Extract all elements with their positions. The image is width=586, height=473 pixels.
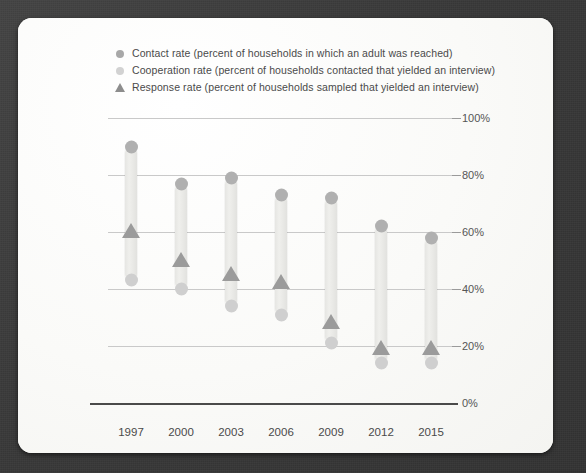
range-bar [175,184,187,289]
y-axis-tick-mark [452,175,461,176]
bar-group[interactable] [214,18,248,453]
cooperation-rate-marker[interactable] [375,357,388,370]
cooperation-rate-marker[interactable] [425,357,438,370]
bar-group[interactable] [414,18,448,453]
y-axis-tick-mark [452,118,461,119]
chart-card-surface: Contact rate (percent of households in w… [18,18,553,453]
contact-rate-marker[interactable] [325,191,338,204]
y-axis-tick-label: 40% [462,283,484,295]
response-rate-marker[interactable] [422,340,440,355]
response-rate-marker[interactable] [222,266,240,281]
contact-rate-marker[interactable] [125,140,138,153]
y-axis-tick-label: 100% [462,112,490,124]
y-axis-tick-label: 0% [462,397,478,409]
x-axis-tick-label: 2015 [401,426,461,438]
cooperation-rate-marker[interactable] [275,308,288,321]
bar-group[interactable] [364,18,398,453]
range-bar [225,178,237,306]
y-axis-tick-label: 60% [462,226,484,238]
contact-rate-marker[interactable] [375,220,388,233]
chart-plot-area: 0%20%40%60%80%100%1997200020032006200920… [18,18,553,453]
contact-rate-marker[interactable] [425,231,438,244]
response-rate-marker[interactable] [322,314,340,329]
y-axis-tick-mark [452,232,461,233]
cooperation-rate-marker[interactable] [325,337,338,350]
cooperation-rate-marker[interactable] [125,274,138,287]
bar-group[interactable] [164,18,198,453]
chart-card: Contact rate (percent of households in w… [18,18,553,453]
response-rate-marker[interactable] [272,274,290,289]
bar-group[interactable] [264,18,298,453]
y-axis-tick-label: 80% [462,169,484,181]
cooperation-rate-marker[interactable] [175,283,188,296]
response-rate-marker[interactable] [172,252,190,267]
range-bar [125,147,137,281]
contact-rate-marker[interactable] [275,188,288,201]
y-axis-tick-mark [452,289,461,290]
contact-rate-marker[interactable] [225,171,238,184]
y-axis-tick-mark [452,346,461,347]
bar-group[interactable] [314,18,348,453]
response-rate-marker[interactable] [372,340,390,355]
response-rate-marker[interactable] [122,223,140,238]
range-bar [275,195,287,315]
contact-rate-marker[interactable] [175,177,188,190]
bar-group[interactable] [114,18,148,453]
y-axis-tick-label: 20% [462,340,484,352]
cooperation-rate-marker[interactable] [225,300,238,313]
